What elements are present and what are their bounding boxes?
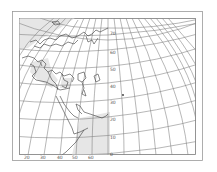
latitude-label-30: 30	[110, 100, 116, 105]
longitude-labels: 20 30 40 50 60	[24, 155, 94, 160]
longitude-label-30: 30	[40, 155, 46, 160]
map-svg: 70 60 50 40 30 20 10 0 20 30 40 50 60	[0, 0, 217, 172]
latitude-label-20: 20	[110, 117, 116, 122]
point-marker	[122, 94, 124, 96]
latitude-label-10: 10	[110, 135, 116, 140]
longitude-label-20: 20	[24, 155, 30, 160]
longitude-label-40: 40	[57, 155, 63, 160]
longitude-label-60: 60	[88, 155, 94, 160]
latitude-label-50: 50	[110, 67, 116, 72]
map-figure: 70 60 50 40 30 20 10 0 20 30 40 50 60	[0, 0, 217, 172]
longitude-label-50: 50	[72, 155, 78, 160]
latitude-label-70: 70	[110, 31, 116, 36]
latitude-label-40: 40	[110, 84, 116, 89]
latitude-label-0: 0	[110, 152, 113, 157]
latitude-label-60: 60	[110, 50, 116, 55]
